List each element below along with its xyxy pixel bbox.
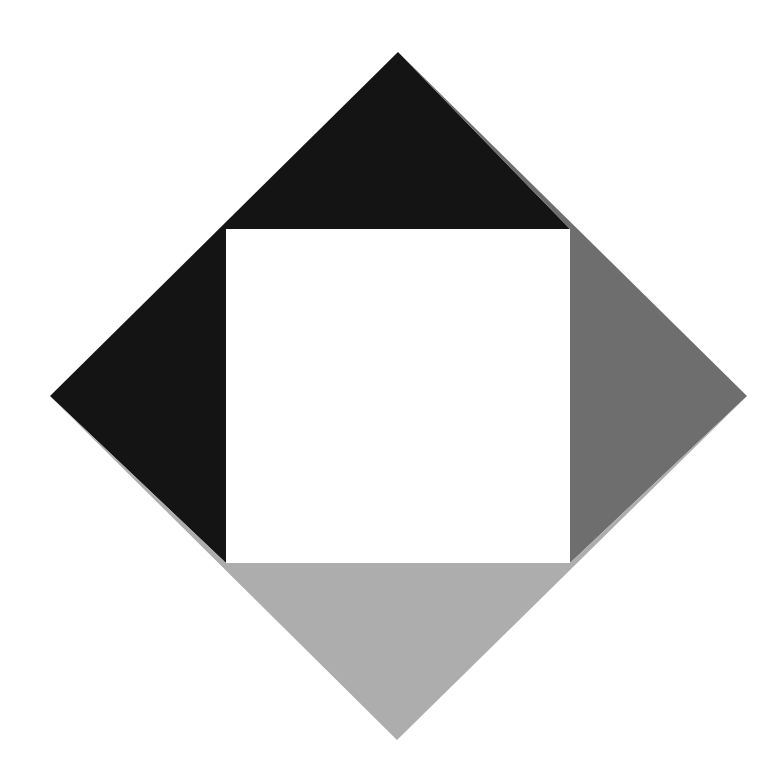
inset-square-white: [226, 229, 570, 563]
composition-svg: [0, 0, 774, 784]
artwork-canvas: Geometric Composition — Diamond with Ins…: [0, 0, 774, 784]
